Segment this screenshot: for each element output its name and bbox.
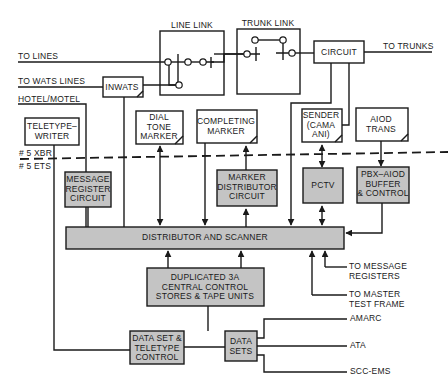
teletypewriter-label: TELETYPE– WRITER bbox=[27, 122, 77, 141]
trunk-link-box bbox=[237, 29, 300, 94]
message-register-label: MESSAGE REGISTER CIRCUIT bbox=[65, 175, 110, 204]
scc-ems-label: SCC-EMS bbox=[350, 367, 391, 377]
to-trunks-label: TO TRUNKS bbox=[383, 42, 434, 52]
inwats-label: INWATS bbox=[105, 83, 138, 93]
line-link-label: LINE LINK bbox=[171, 21, 213, 31]
to-lines-label: TO LINES bbox=[18, 52, 58, 62]
aiod-trans-label: AIOD TRANS bbox=[366, 115, 396, 134]
to-master-test-frame-label: TO MASTER TEST FRAME bbox=[349, 290, 405, 309]
pctv-label: PCTV bbox=[311, 181, 334, 191]
trunk-link-label: TRUNK LINK bbox=[242, 19, 295, 29]
ata-label: ATA bbox=[350, 341, 366, 351]
completing-marker-label: COMPLETING MARKER bbox=[197, 117, 255, 136]
circuit-label: CIRCUIT bbox=[321, 48, 357, 58]
data-sets-label: DATA SETS bbox=[229, 337, 252, 356]
to-message-registers-label: TO MESSAGE REGISTERS bbox=[349, 262, 407, 281]
to-wats-lines-label: TO WATS LINES bbox=[18, 77, 85, 87]
data-set-tty-control-label: DATA SET & TELETYPE CONTROL bbox=[132, 334, 182, 363]
pbx-aiod-label: PBX–AIOD BUFFER & CONTROL bbox=[357, 170, 408, 199]
ets-label: # 5 ETS bbox=[19, 162, 51, 172]
xbr-label: # 5 XBR bbox=[19, 149, 52, 159]
hotel-motel-label: HOTEL/MOTEL bbox=[18, 95, 80, 105]
central-control-label: DUPLICATED 3A CENTRAL CONTROL STORES & T… bbox=[156, 273, 254, 302]
xbr-ets-divider bbox=[20, 152, 448, 159]
sender-label: SENDER (CAMA ANI) bbox=[303, 111, 340, 140]
marker-distributor-label: MARKER DISTRIBUTOR CIRCUIT bbox=[217, 173, 277, 202]
ess-block-diagram: TO LINES TO WATS LINES HOTEL/MOTEL TO TR… bbox=[0, 0, 448, 383]
distributor-scanner-label: DISTRIBUTOR AND SCANNER bbox=[142, 233, 268, 243]
dial-tone-marker-label: DIAL TONE MARKER bbox=[140, 113, 178, 142]
amarc-label: AMARC bbox=[350, 314, 382, 324]
